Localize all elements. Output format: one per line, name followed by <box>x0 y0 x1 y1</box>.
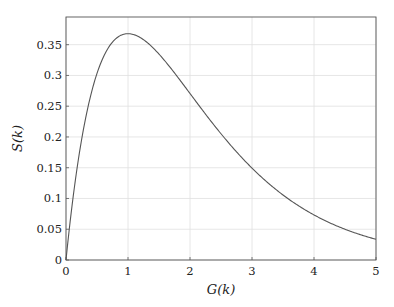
y-tick-label: 0.05 <box>36 222 62 236</box>
y-tick-label: 0.2 <box>44 130 62 144</box>
y-tick-label: 0.15 <box>36 161 62 175</box>
x-tick-label: 3 <box>248 264 255 278</box>
x-axis-label: G(k) <box>207 282 235 297</box>
data-curve <box>66 34 376 260</box>
y-tick-label: 0 <box>55 253 62 267</box>
grid-lines <box>66 17 376 260</box>
x-tick-label: 0 <box>62 264 69 278</box>
y-tick-label: 0.25 <box>36 99 62 113</box>
y-tick-label: 0.3 <box>44 68 62 82</box>
y-axis-label: S(k) <box>10 125 25 152</box>
plot-frame <box>66 17 376 260</box>
x-tick-label: 1 <box>124 264 131 278</box>
y-axis-ticks: 00.050.10.150.20.250.30.35 <box>36 38 69 267</box>
y-tick-label: 0.35 <box>36 38 62 52</box>
y-tick-label: 0.1 <box>44 191 62 205</box>
x-tick-label: 2 <box>186 264 193 278</box>
x-tick-label: 5 <box>372 264 379 278</box>
x-tick-label: 4 <box>310 264 317 278</box>
line-chart: 012345 00.050.10.150.20.250.30.35 G(k) S… <box>0 0 394 307</box>
